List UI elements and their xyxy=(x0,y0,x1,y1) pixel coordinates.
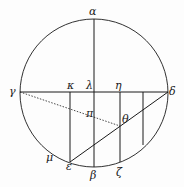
label-eta: η xyxy=(115,80,122,91)
geometry-figure xyxy=(0,0,184,187)
label-gamma: γ xyxy=(9,86,16,97)
line-epsilon-delta xyxy=(70,92,168,162)
label-kappa: κ xyxy=(67,80,74,91)
label-alpha: α xyxy=(89,6,96,17)
label-beta: β xyxy=(90,170,96,181)
label-delta: δ xyxy=(169,86,176,97)
label-pi: π xyxy=(86,108,93,119)
diagram: α β γ δ ε ζ η θ κ λ μ π xyxy=(0,0,184,187)
label-lambda: λ xyxy=(86,80,93,91)
label-mu: μ xyxy=(46,152,53,163)
label-zeta: ζ xyxy=(116,167,122,178)
label-theta: θ xyxy=(122,114,129,125)
label-epsilon: ε xyxy=(66,161,72,172)
